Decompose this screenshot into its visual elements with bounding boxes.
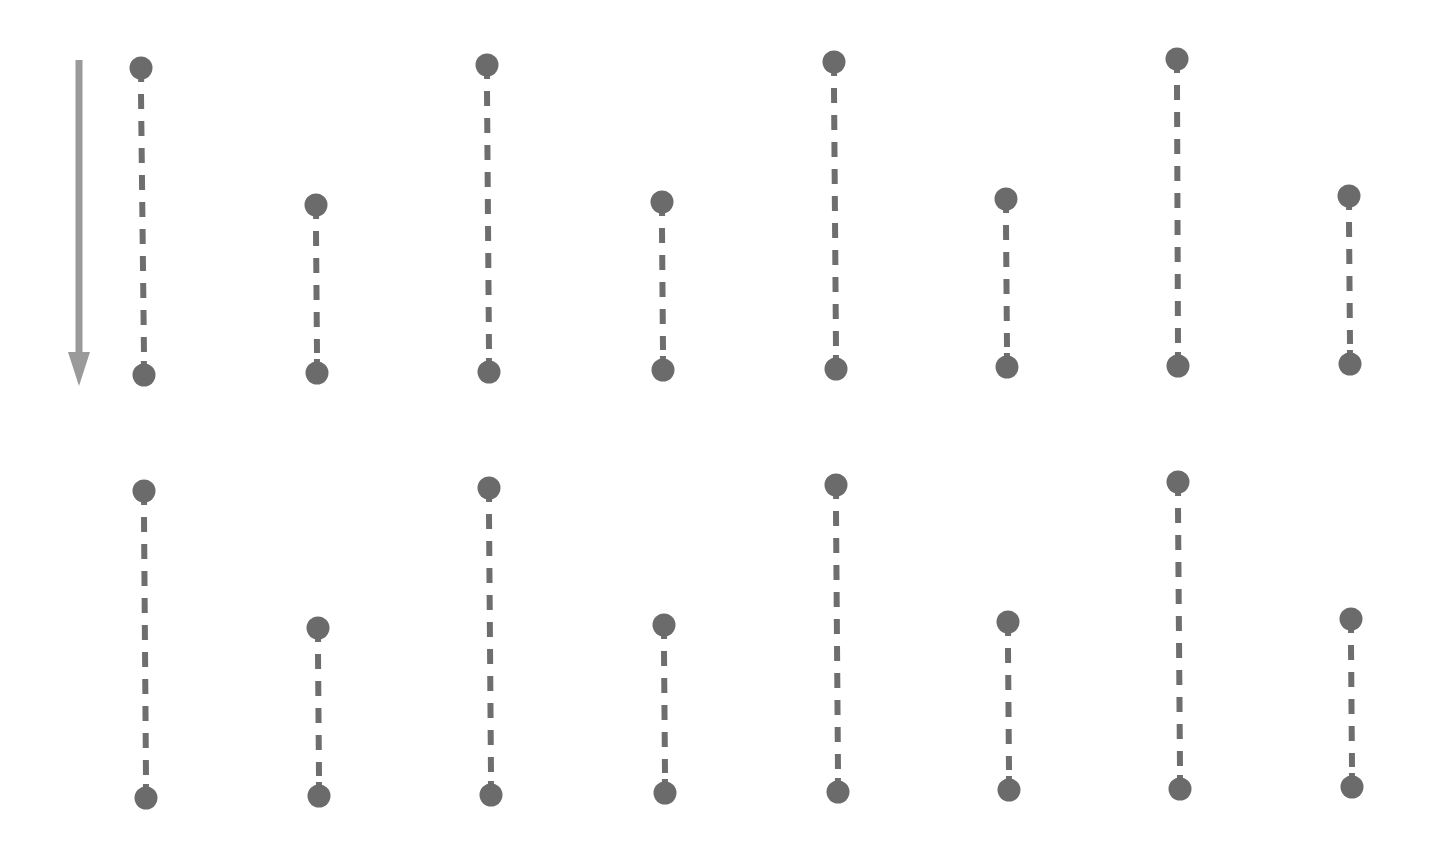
dashed-line [1349, 222, 1350, 344]
dashed-line [141, 94, 144, 355]
endpoint-dot-bottom [1167, 355, 1190, 378]
dashed-line [1008, 648, 1009, 770]
dashed-line [834, 88, 836, 349]
dashed-segment [997, 611, 1021, 802]
segment-rows [130, 48, 1364, 810]
dashed-segment [478, 477, 503, 807]
endpoint-dot-bottom [996, 356, 1019, 379]
dashed-line [318, 654, 319, 776]
dashed-segment [1167, 471, 1192, 801]
segment-row-2 [133, 471, 1364, 810]
dashed-segment [823, 51, 848, 381]
dashed-line [1351, 645, 1352, 767]
endpoint-dot-bottom [1339, 353, 1362, 376]
dashed-line [144, 517, 146, 778]
endpoint-dot-bottom [825, 358, 848, 381]
endpoint-dot-top [995, 188, 1018, 211]
endpoint-dot-top [653, 614, 676, 637]
segment-row-1 [130, 48, 1362, 387]
dashed-segment [1338, 185, 1362, 376]
endpoint-dot-top [1166, 48, 1189, 71]
endpoint-dot-top [130, 57, 153, 80]
dashed-segment [995, 188, 1019, 379]
endpoint-dot-bottom [998, 779, 1021, 802]
dashed-line [316, 231, 317, 353]
endpoint-dot-top [1340, 608, 1363, 631]
endpoint-dot-top [823, 51, 846, 74]
dashed-line [1177, 85, 1178, 346]
dashed-line [1178, 508, 1180, 769]
endpoint-dot-bottom [133, 364, 156, 387]
endpoint-dot-bottom [478, 361, 501, 384]
dashed-segment [1166, 48, 1190, 378]
dashed-line [836, 511, 838, 772]
dashed-line [662, 228, 663, 350]
endpoint-dot-bottom [306, 362, 329, 385]
dashed-segment [1340, 608, 1364, 799]
dashed-segment [653, 614, 677, 805]
endpoint-dot-top [997, 611, 1020, 634]
arrow-shaft [76, 60, 83, 354]
dashed-segment [307, 617, 331, 808]
endpoint-dot-bottom [827, 781, 850, 804]
dashed-line [489, 514, 491, 775]
endpoint-dot-top [1167, 471, 1190, 494]
down-arrow-icon [68, 60, 90, 386]
endpoint-dot-bottom [654, 782, 677, 805]
endpoint-dot-top [825, 474, 848, 497]
endpoint-dot-top [307, 617, 330, 640]
dashed-segment [825, 474, 850, 804]
endpoint-dot-bottom [652, 359, 675, 382]
endpoint-dot-top [1338, 185, 1361, 208]
dashed-segment [305, 194, 329, 385]
dashed-line [664, 651, 665, 773]
endpoint-dot-top [305, 194, 328, 217]
endpoint-dot-top [651, 191, 674, 214]
endpoint-dot-top [476, 54, 499, 77]
diagram-canvas [0, 0, 1437, 847]
dashed-segment [130, 57, 156, 387]
dashed-segment [476, 54, 501, 384]
dashed-line [1006, 225, 1007, 347]
arrow-head [68, 352, 90, 386]
endpoint-dot-bottom [480, 784, 503, 807]
endpoint-dot-bottom [135, 787, 158, 810]
endpoint-dot-bottom [308, 785, 331, 808]
endpoint-dot-bottom [1341, 776, 1364, 799]
dashed-segment [133, 480, 158, 810]
dashed-line [487, 91, 489, 352]
dashed-segment [651, 191, 675, 382]
endpoint-dot-bottom [1169, 778, 1192, 801]
endpoint-dot-top [478, 477, 501, 500]
endpoint-dot-top [133, 480, 156, 503]
